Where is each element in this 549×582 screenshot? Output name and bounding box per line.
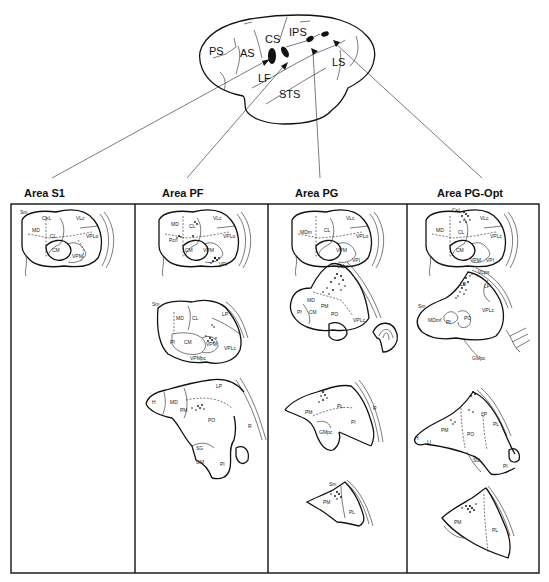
svg-text:PL: PL (492, 527, 498, 533)
svg-text:PM: PM (323, 499, 331, 505)
svg-text:MD: MD (436, 227, 444, 233)
sulcus-label-ps: PS (209, 45, 224, 57)
svg-text:Pf: Pf (446, 319, 451, 325)
svg-text:MD: MD (32, 227, 40, 233)
svg-text:VLc: VLc (76, 215, 85, 221)
svg-text:VPLc: VPLc (353, 317, 365, 323)
svg-text:R: R (248, 423, 252, 429)
svg-text:PL: PL (493, 421, 499, 427)
svg-text:H: H (415, 435, 419, 441)
svg-text:PO: PO (467, 431, 474, 437)
thalamus-section: Sm PM PL (307, 480, 373, 526)
thalamus-section: MD CL VLc Pcn CM VPM VPLo VPI (159, 210, 251, 276)
svg-text:CL: CL (192, 315, 199, 321)
thalamus-section: CeL MD CL CM VLc VPLc VPM VPI (426, 207, 518, 276)
svg-text:CM: CM (52, 247, 60, 253)
labeled-cells-cluster (330, 491, 342, 500)
svg-text:LI: LI (427, 439, 431, 445)
svg-text:VPLc: VPLc (224, 345, 236, 351)
svg-text:Sm: Sm (418, 303, 426, 309)
svg-text:MD: MD (170, 399, 178, 405)
thalamus-section: PM PL GMpc PI R (285, 380, 383, 450)
labeled-cells-cluster (450, 391, 476, 425)
svg-text:VPI: VPI (219, 261, 227, 267)
svg-text:VPMpc: VPMpc (190, 355, 207, 361)
svg-text:VPLo: VPLo (223, 233, 235, 239)
svg-text:VPI: VPI (486, 257, 494, 263)
sulcus-label-ips: IPS (289, 26, 307, 38)
svg-text:VLc: VLc (213, 215, 222, 221)
labeled-cells-cluster (205, 324, 217, 343)
panel-frame (11, 204, 539, 573)
svg-text:LP: LP (481, 411, 488, 417)
column-title-pgopt: Area PG-Opt (437, 187, 503, 199)
sulcus-label-ls: LS (332, 56, 345, 68)
svg-text:VLc: VLc (480, 215, 489, 221)
svg-text:VPM: VPM (336, 247, 347, 253)
svg-text:PL: PL (337, 403, 343, 409)
injection-site-pf (279, 45, 290, 58)
svg-text:CM: CM (309, 309, 317, 315)
svg-text:MD: MD (171, 221, 179, 227)
svg-text:PL: PL (349, 509, 355, 515)
svg-text:VLc: VLc (346, 215, 355, 221)
svg-text:GM: GM (196, 459, 204, 465)
svg-text:PO: PO (208, 417, 215, 423)
svg-text:MDm: MDm (300, 229, 312, 235)
thalamus-section: Sm MD CL LP Pf CM VPM VPMpc VPLc (152, 300, 248, 363)
svg-text:Pf: Pf (297, 309, 302, 315)
column-title-pg: Area PG (295, 187, 338, 199)
leader-lines (52, 44, 482, 178)
thalamus-section: VLps LD LP Sm MDmf Pf PO VPLc GMpc (417, 268, 530, 361)
svg-text:CL: CL (458, 229, 465, 235)
labeled-cells-cluster (318, 391, 328, 403)
svg-text:Sm: Sm (329, 481, 337, 487)
svg-text:PM: PM (441, 427, 449, 433)
figure-canvas: PS AS CS IPS LF STS LS Area S1 Area PF A… (0, 0, 549, 582)
svg-text:PM: PM (180, 407, 188, 413)
svg-text:VPM: VPM (203, 247, 214, 253)
svg-text:CeL: CeL (452, 207, 461, 213)
svg-text:PM: PM (454, 519, 462, 525)
svg-text:PI: PI (220, 461, 225, 467)
svg-text:VPLo: VPLo (86, 233, 98, 239)
svg-text:Pf: Pf (170, 339, 175, 345)
svg-text:VLps: VLps (478, 269, 490, 275)
svg-text:MD: MD (307, 297, 315, 303)
thalamus-section: VLps MD PM Pf CM PO VPLc (290, 262, 397, 352)
svg-text:VPM: VPM (72, 253, 83, 259)
column-title-s1: Area S1 (24, 187, 65, 199)
svg-text:Sm: Sm (152, 301, 160, 307)
column-area-pg: MDm CL VLc VPM VPLo VPI VLps MD PM Pf CM… (285, 210, 397, 526)
svg-text:CM: CM (456, 247, 464, 253)
column-area-pf: MD CL VLc Pcn CM VPM VPLo VPI Sm (146, 210, 266, 479)
thalamus-section: Sm CeL MD CL VLc VPLo CM VPM (20, 209, 114, 276)
thalamus-section: PM PL (442, 486, 514, 558)
svg-text:CL: CL (50, 233, 57, 239)
svg-text:VPLc: VPLc (490, 233, 502, 239)
labeled-cells-cluster (191, 404, 205, 411)
svg-text:SG: SG (196, 445, 203, 451)
svg-text:CM: CM (185, 247, 193, 253)
svg-text:MDmf: MDmf (428, 317, 442, 323)
svg-text:R: R (373, 405, 377, 411)
svg-text:LP: LP (484, 283, 491, 289)
svg-text:VPM: VPM (206, 341, 217, 347)
svg-text:H: H (152, 399, 156, 405)
svg-text:PM: PM (321, 303, 329, 309)
sulcus-label-cs: CS (265, 33, 280, 45)
sulcus-label-lf: LF (258, 72, 271, 84)
svg-text:VPM: VPM (470, 257, 481, 263)
labeled-cells-cluster (461, 503, 477, 513)
svg-text:VLps: VLps (337, 263, 349, 269)
svg-text:PO: PO (331, 311, 338, 317)
svg-text:MD: MD (176, 315, 184, 321)
thalamus-section: H LI PM PO LP PL SG PI (415, 388, 520, 475)
svg-text:CeL: CeL (42, 215, 51, 221)
svg-text:VPI: VPI (352, 257, 360, 263)
labeled-cells-cluster (322, 273, 346, 295)
svg-text:PO: PO (464, 315, 471, 321)
thalamus-section: H MD LP PM PO SG GM PI R (146, 378, 266, 479)
arrowhead-icon (262, 59, 270, 66)
svg-text:PI: PI (351, 419, 356, 425)
